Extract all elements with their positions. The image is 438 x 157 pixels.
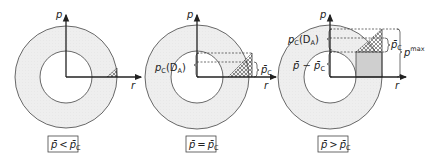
brace-pmax [397, 29, 402, 77]
r-axis-label: r [395, 80, 400, 91]
panel-2: pC(DA) p̄C p r p̄=p̄C [145, 9, 276, 152]
contact-pressure-diagram: p r p̄<p̄C pC(DA) p̄C p r [0, 0, 438, 157]
panel-3: pC(DA) p̄ − p̄C p̄C pmax p r p̄>p̄C [278, 9, 425, 152]
label-pmax: pmax [403, 45, 425, 58]
p-axis-label: p [319, 9, 326, 20]
brace-pbar-c [385, 38, 390, 52]
brace-pbar-c [254, 62, 259, 77]
uniform-pressure-block [356, 52, 382, 77]
panel-1: p r p̄<p̄C [15, 9, 141, 152]
p-axis-label: p [186, 9, 193, 20]
r-axis-label: r [264, 80, 269, 91]
label-pbar-c: p̄C [260, 64, 272, 77]
label-pbar-c: p̄C [390, 39, 402, 52]
r-axis-label: r [131, 80, 136, 91]
p-axis-label: p [55, 9, 62, 20]
